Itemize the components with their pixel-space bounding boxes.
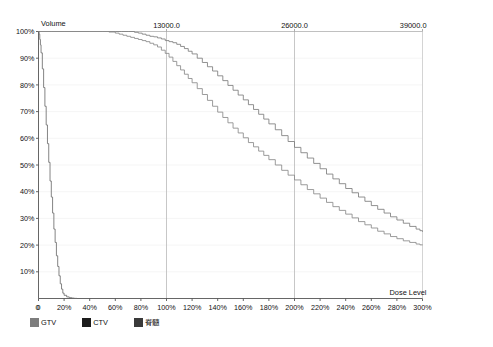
legend-item-CTV[interactable]: CTV <box>82 318 108 327</box>
chart-legend: GTVCTV脊髓 <box>30 318 185 327</box>
y-tick-label: 80% <box>20 81 35 90</box>
legend-label: 脊髓 <box>145 318 159 327</box>
x-tick-label: 180% <box>260 303 279 312</box>
top-axis-tick-label: 39000.0 <box>400 21 427 30</box>
x-tick-label: 60% <box>108 303 123 312</box>
x-tick-label: 120% <box>183 303 202 312</box>
top-axis-tick-label: 13000.0 <box>153 21 180 30</box>
y-tick-label: 90% <box>20 54 35 63</box>
legend-swatch-icon <box>82 318 91 327</box>
y-tick-label: 10% <box>20 267 35 276</box>
top-axis-tick-label: 26000.0 <box>281 21 308 30</box>
x-tick-label: 240% <box>337 303 356 312</box>
y-tick-label: 50% <box>20 161 35 170</box>
x-axis-title: Dose Level <box>390 288 427 297</box>
legend-swatch-icon <box>30 318 39 327</box>
x-tick-label: 40% <box>83 303 98 312</box>
x-tick-label: 80% <box>134 303 149 312</box>
legend-label: CTV <box>93 318 108 327</box>
y-tick-label: 40% <box>20 187 35 196</box>
x-tick-label: 280% <box>388 303 407 312</box>
x-tick-label: 200% <box>285 303 304 312</box>
x-tick-label: 160% <box>234 303 253 312</box>
legend-item-GTV[interactable]: GTV <box>30 318 56 327</box>
x-tick-label: 260% <box>362 303 381 312</box>
y-tick-label: 20% <box>20 241 35 250</box>
legend-label: GTV <box>41 318 56 327</box>
grid-layer <box>39 32 423 299</box>
x-tick-label: 220% <box>311 303 330 312</box>
y-axis-title: Volume <box>41 19 66 28</box>
x-tick-label: 300% <box>413 303 432 312</box>
x-tick-label: 20% <box>57 303 72 312</box>
dvh-plot-svg: 10%20%30%40%50%60%70%80%90%100%020%40%60… <box>0 0 493 347</box>
dvh-chart: 10%20%30%40%50%60%70%80%90%100%020%40%60… <box>0 0 493 347</box>
legend-item-脊髓[interactable]: 脊髓 <box>134 318 159 327</box>
y-tick-label: 30% <box>20 214 35 223</box>
y-tick-label: 60% <box>20 134 35 143</box>
x-tick-label: 140% <box>209 303 228 312</box>
y-tick-label: 100% <box>16 27 35 36</box>
legend-swatch-icon <box>134 318 143 327</box>
x-tick-label: 100% <box>157 303 176 312</box>
y-tick-label: 70% <box>20 107 35 116</box>
origin-label: 0 <box>36 303 40 312</box>
series-line-GTV <box>39 32 423 232</box>
